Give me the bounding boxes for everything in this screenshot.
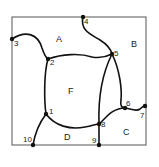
node-5-label: 5 — [114, 49, 119, 58]
node-3-label: 3 — [14, 39, 19, 48]
edge-1-10 — [33, 114, 46, 145]
node-8-label: 8 — [101, 120, 106, 129]
node-2-label: 2 — [50, 58, 55, 67]
node-7-label: 7 — [140, 111, 145, 120]
node-7-dot — [143, 104, 147, 108]
node-9-label: 9 — [92, 136, 97, 145]
edges — [12, 17, 145, 145]
edge-2-1 — [45, 59, 48, 114]
node-1-dot — [44, 112, 48, 116]
edge-1-8 — [46, 114, 99, 128]
region-b-label: B — [131, 39, 137, 49]
node-10-label: 10 — [23, 135, 32, 144]
region-labels: A B C D F — [56, 34, 137, 142]
node-6-label: 6 — [126, 99, 131, 108]
node-1-label: 1 — [49, 107, 54, 116]
region-f-label: F — [68, 86, 74, 96]
region-d-label: D — [64, 132, 71, 142]
node-9-dot — [97, 143, 101, 147]
map-graph-diagram: 1 2 3 4 5 6 7 8 9 10 A B C D F — [0, 0, 159, 167]
region-a-label: A — [56, 34, 62, 44]
edge-5-6 — [112, 54, 125, 108]
edge-2-5 — [48, 54, 112, 59]
node-4-label: 4 — [84, 17, 89, 26]
region-c-label: C — [123, 127, 130, 137]
